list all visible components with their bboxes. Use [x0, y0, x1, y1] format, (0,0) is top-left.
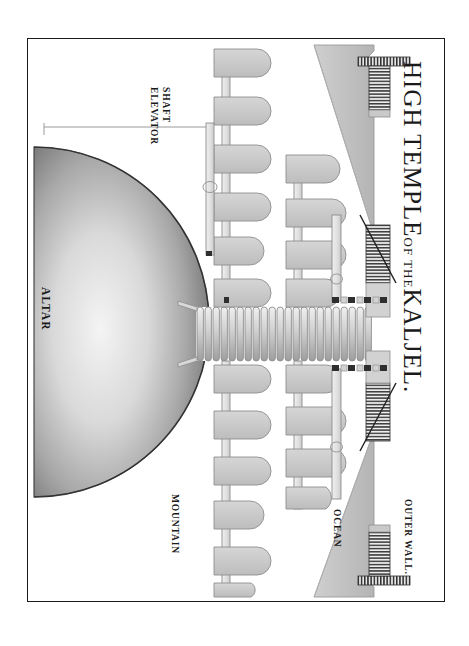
- label-ocean: OCEAN: [332, 509, 342, 548]
- plate-border-frame: HIGH TEMPLEOF THEKALJEL. ALTAR ELEVATOR …: [27, 38, 445, 602]
- temple-plan-plate: HIGH TEMPLEOF THEKALJEL. ALTAR ELEVATOR …: [0, 0, 469, 646]
- label-elevator-shaft-line2: SHAFT: [161, 87, 171, 123]
- label-mountain: MOUNTAIN: [170, 494, 180, 554]
- label-altar: ALTAR: [40, 287, 52, 331]
- plan-label-layer: HIGH TEMPLEOF THEKALJEL. ALTAR ELEVATOR …: [28, 39, 446, 603]
- label-outer-wall: OUTER WALL.: [403, 499, 413, 575]
- title-subject: KALJEL.: [399, 288, 426, 393]
- title-connector: OF THE: [401, 238, 416, 289]
- plan-title: HIGH TEMPLEOF THEKALJEL.: [398, 61, 426, 393]
- label-elevator-shaft-line1: ELEVATOR: [149, 87, 159, 145]
- title-main: HIGH TEMPLE: [399, 61, 426, 238]
